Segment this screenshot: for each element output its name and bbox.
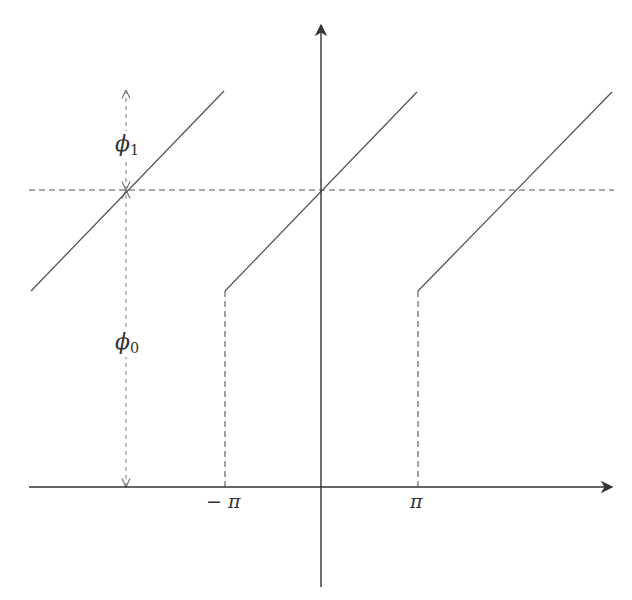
phi1-symbol: ϕ xyxy=(115,131,130,156)
phi0-symbol: ϕ xyxy=(115,329,130,354)
tick-label-pi: π xyxy=(410,492,423,511)
tick-label-neg-pi: − π xyxy=(206,492,240,511)
tick-label-neg-pi-text: − π xyxy=(206,490,240,512)
tick-label-pi-text: π xyxy=(410,490,423,512)
right-branch xyxy=(418,92,612,291)
diagram-canvas: − π π ϕ1 ϕ0 xyxy=(0,0,632,600)
plot-svg xyxy=(0,0,632,600)
phi0-subscript: 0 xyxy=(130,340,139,356)
phi1-label: ϕ1 xyxy=(114,131,140,159)
phi1-subscript: 1 xyxy=(130,142,139,158)
phi0-label: ϕ0 xyxy=(114,329,140,357)
left-branch xyxy=(31,91,224,291)
